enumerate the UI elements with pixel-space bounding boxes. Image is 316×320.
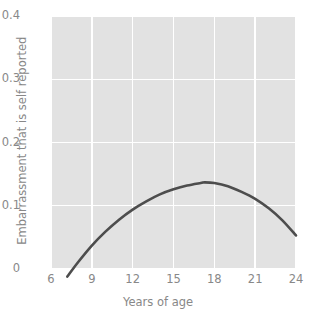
line-series-layer <box>51 16 296 269</box>
chart-figure: 00.10.20.30.4 691215182124 Embarrassment… <box>0 0 316 320</box>
x-tick-label: 6 <box>47 274 54 286</box>
x-tick-label: 12 <box>125 274 140 286</box>
x-tick-label: 18 <box>207 274 222 286</box>
line-series-embarrassment <box>67 182 296 276</box>
x-tick-label: 15 <box>166 274 181 286</box>
x-tick-label: 21 <box>248 274 263 286</box>
x-tick-label: 9 <box>88 274 95 286</box>
x-axis-title: Years of age <box>0 297 316 309</box>
y-axis-title: Embarrassment that is self reported <box>17 10 29 272</box>
x-tick-label: 24 <box>289 274 304 286</box>
